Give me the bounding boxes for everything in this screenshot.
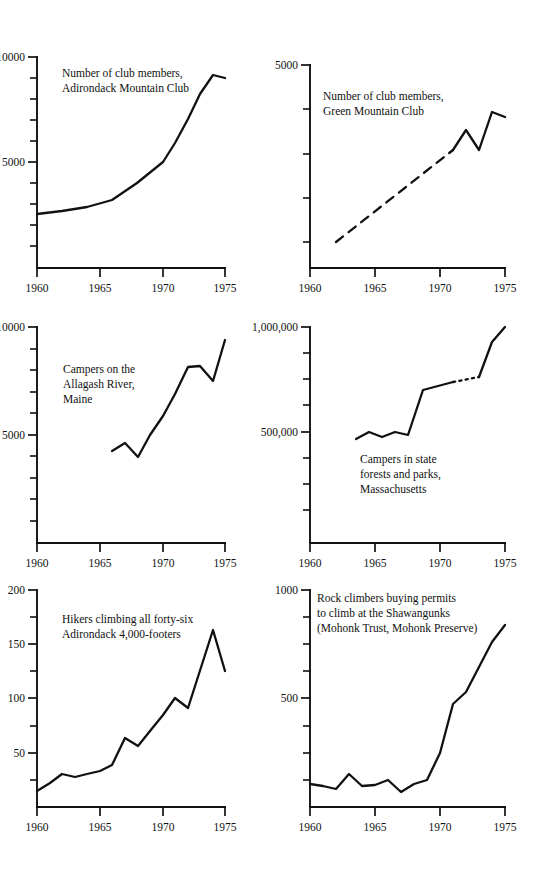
series-line-green-mountain-estimated (336, 150, 453, 242)
y-tick-label-5000: 5000 (2, 429, 25, 441)
x-tick-label-1975: 1975 (214, 821, 237, 833)
panel-caption-line-1: Number of club members, (323, 90, 444, 103)
x-tick-label-1975: 1975 (494, 282, 517, 294)
x-tick-label-1970: 1970 (152, 557, 175, 569)
x-tick-label-1970: 1970 (429, 282, 452, 294)
series-line-massachusetts-interpolated (453, 377, 479, 382)
x-tick-label-1960: 1960 (26, 557, 49, 569)
allagash-campers-plot: 10000 5000 1960 1965 1970 1975 Campers o… (0, 315, 270, 580)
panel-caption-line-3: Maine (63, 393, 92, 405)
panel-caption-line-3: Massachusetts (360, 483, 427, 495)
x-tick-label-1970: 1970 (429, 821, 452, 833)
x-axis (310, 807, 505, 816)
y-tick-label-150: 150 (8, 638, 26, 650)
y-tick-label-1000000: 1,000,000 (252, 321, 298, 334)
y-tick-label-100: 100 (8, 692, 26, 704)
y-tick-label-5000: 5000 (2, 156, 25, 168)
x-tick-label-1975: 1975 (494, 821, 517, 833)
x-tick-label-1970: 1970 (152, 821, 175, 833)
panel-caption-line-2: Adirondack 4,000-footers (62, 628, 181, 641)
x-axis (37, 807, 225, 816)
x-tick-label-1975: 1975 (214, 282, 237, 294)
x-tick-label-1975: 1975 (214, 557, 237, 569)
green-mountain-members-plot: 5000 1960 1965 1970 1975 Number of club … (265, 40, 541, 305)
y-tick-label-500000: 500,000 (261, 426, 299, 439)
panel-caption-line-3: (Mohonk Trust, Mohonk Preserve) (317, 622, 478, 635)
panel-caption-line-1: Number of club members, (62, 67, 183, 80)
panel-caption-line-2: Adirondack Mountain Club (62, 82, 189, 94)
x-tick-label-1960: 1960 (26, 821, 49, 833)
panel-caption-line-2: forests and parks, (360, 468, 441, 481)
x-tick-label-1965: 1965 (364, 282, 387, 294)
series-line-allagash-campers (112, 340, 225, 457)
x-tick-label-1960: 1960 (299, 821, 322, 833)
chart-panel-green-mountain-members: 5000 1960 1965 1970 1975 Number of club … (265, 40, 541, 305)
x-tick-label-1975: 1975 (494, 557, 517, 569)
x-tick-label-1965: 1965 (364, 821, 387, 833)
chart-panel-adirondack-members: 10000 5000 1960 1965 1970 1975 Number of… (0, 40, 270, 305)
x-axis (310, 268, 505, 277)
y-tick-label-200: 200 (8, 584, 26, 596)
x-axis (310, 543, 505, 552)
x-tick-label-1960: 1960 (299, 557, 322, 569)
panel-caption-line-1: Hikers climbing all forty-six (62, 613, 194, 626)
y-tick-marks (28, 57, 37, 246)
y-tick-label-10000: 10000 (0, 51, 25, 63)
x-tick-label-1965: 1965 (89, 282, 112, 294)
y-tick-marks (28, 327, 37, 521)
adirondack-members-plot: 10000 5000 1960 1965 1970 1975 Number of… (0, 40, 270, 305)
x-tick-label-1960: 1960 (26, 282, 49, 294)
x-tick-label-1965: 1965 (364, 557, 387, 569)
y-tick-marks (301, 327, 310, 510)
chart-panel-adirondack-46ers: 200 150 100 50 1960 1965 1970 1975 Hiker… (0, 575, 270, 845)
y-tick-marks (301, 65, 310, 242)
series-line-massachusetts-campers (356, 382, 453, 439)
small-multiples-figure: 10000 5000 1960 1965 1970 1975 Number of… (0, 0, 541, 874)
y-tick-label-5000: 5000 (275, 59, 298, 71)
panel-caption-line-1: Rock climbers buying permits (317, 592, 456, 605)
y-tick-label-50: 50 (14, 747, 26, 759)
series-line-massachusetts-continued (479, 327, 505, 377)
x-tick-label-1970: 1970 (152, 282, 175, 294)
panel-caption-line-2: Allagash River, (63, 378, 135, 391)
series-line-adirondack-46ers (37, 630, 225, 791)
panel-caption-line-1: Campers in state (360, 453, 437, 466)
y-tick-label-10000: 10000 (0, 321, 25, 333)
adirondack-46ers-plot: 200 150 100 50 1960 1965 1970 1975 Hiker… (0, 575, 270, 845)
y-tick-label-1000: 1000 (275, 584, 298, 596)
panel-caption-line-1: Campers on the (63, 363, 135, 376)
x-axis (37, 268, 225, 277)
series-line-shawangunks-permits (310, 625, 505, 792)
chart-panel-massachusetts-campers: 1,000,000 500,000 1960 1965 1970 1975 Ca… (265, 315, 541, 580)
x-tick-label-1965: 1965 (89, 557, 112, 569)
x-tick-label-1970: 1970 (429, 557, 452, 569)
chart-panel-shawangunks-permits: 1000 500 1960 1965 1970 1975 Rock climbe… (265, 575, 541, 845)
series-line-green-mountain-recorded (453, 112, 505, 150)
chart-panel-allagash-campers: 10000 5000 1960 1965 1970 1975 Campers o… (0, 315, 270, 580)
y-tick-marks (301, 590, 310, 780)
panel-caption-line-2: to climb at the Shawangunks (317, 607, 450, 620)
y-tick-label-500: 500 (281, 692, 299, 704)
series-line-adirondack-members (37, 75, 225, 214)
x-tick-label-1965: 1965 (89, 821, 112, 833)
shawangunks-permits-plot: 1000 500 1960 1965 1970 1975 Rock climbe… (265, 575, 541, 845)
y-tick-marks (28, 590, 37, 780)
x-tick-label-1960: 1960 (299, 282, 322, 294)
massachusetts-campers-plot: 1,000,000 500,000 1960 1965 1970 1975 Ca… (265, 315, 541, 580)
panel-caption-line-2: Green Mountain Club (323, 105, 424, 117)
x-axis (37, 543, 225, 552)
